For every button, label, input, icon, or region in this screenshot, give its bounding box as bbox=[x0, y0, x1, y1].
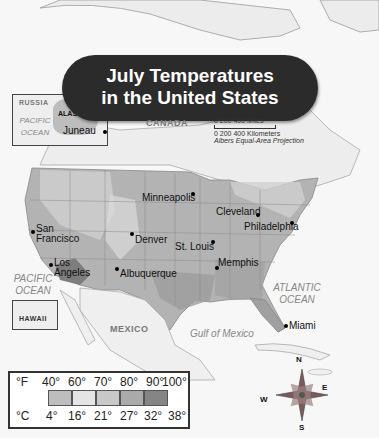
city-dot-los-angeles bbox=[49, 263, 53, 267]
legend-c-38: 38° bbox=[168, 409, 186, 423]
legend-f-60: 60° bbox=[68, 375, 86, 389]
compass-e: E bbox=[322, 383, 327, 392]
legend-fahrenheit-unit: °F bbox=[16, 375, 28, 389]
scale-km: 0 200 400 Kilometers bbox=[214, 130, 304, 137]
mexico-label: MEXICO bbox=[110, 324, 149, 334]
city-dot-albuquerque bbox=[115, 267, 119, 271]
inset-pacific-ocean-label: PACIFIC OCEAN bbox=[15, 115, 55, 139]
city-denver: Denver bbox=[135, 234, 167, 245]
legend-swatch-4 bbox=[120, 390, 144, 406]
compass-w: W bbox=[260, 395, 268, 404]
legend-swatch-2 bbox=[72, 390, 96, 406]
legend-c-16: 16° bbox=[68, 409, 86, 423]
legend-celsius-unit: °C bbox=[16, 409, 29, 423]
city-miami: Miami bbox=[289, 320, 316, 331]
gulf-of-mexico-label: Gulf of Mexico bbox=[190, 328, 254, 340]
canada-label: CANADA bbox=[146, 118, 188, 128]
legend-swatch-3 bbox=[96, 390, 120, 406]
legend-c-21: 21° bbox=[94, 409, 112, 423]
compass-rose-icon: N S E W bbox=[272, 365, 332, 425]
title-line-1: July Temperatures bbox=[62, 65, 318, 87]
legend-swatch-1 bbox=[48, 390, 72, 406]
legend-c-4: 4° bbox=[46, 409, 57, 423]
projection-label: Albers Equal-Area Projection bbox=[214, 137, 304, 144]
legend-f-70: 70° bbox=[94, 375, 112, 389]
city-san-francisco: San Francisco bbox=[36, 224, 76, 244]
juneau-label: Juneau bbox=[63, 125, 96, 136]
legend-c-27: 27° bbox=[120, 409, 138, 423]
city-dot-denver bbox=[130, 232, 134, 236]
city-philadelphia: Philadelphia bbox=[244, 221, 299, 232]
legend-f-40: 40° bbox=[42, 375, 60, 389]
hawaii-label: HAWAII bbox=[19, 315, 47, 322]
scale-bar: 0 200 400 Miles 0 200 400 Kilometers Alb… bbox=[214, 117, 304, 144]
city-dot-san-francisco bbox=[31, 230, 35, 234]
city-st-louis: St. Louis bbox=[175, 241, 214, 252]
atlantic-ocean-label: ATLANTIC OCEAN bbox=[270, 282, 324, 306]
city-los-angeles: Los Angeles bbox=[54, 258, 94, 278]
legend-f-80: 80° bbox=[120, 375, 138, 389]
scale-miles: 0 200 400 Miles bbox=[214, 117, 304, 124]
juneau-dot bbox=[103, 130, 107, 134]
city-memphis: Memphis bbox=[218, 257, 259, 268]
city-minneapolis: Minneapolis bbox=[142, 192, 195, 203]
title-line-2: in the United States bbox=[62, 87, 318, 109]
hawaii-inset: HAWAII bbox=[12, 300, 58, 330]
legend-f-100: 100° bbox=[162, 375, 187, 389]
russia-label: RUSSIA bbox=[19, 99, 48, 106]
city-cleveland: Cleveland bbox=[216, 206, 260, 217]
legend-c-32: 32° bbox=[144, 409, 162, 423]
city-dot-miami bbox=[284, 324, 288, 328]
pacific-ocean-label: PACIFIC OCEAN bbox=[8, 273, 58, 297]
map-title: July Temperatures in the United States bbox=[62, 55, 318, 121]
legend-swatch-5 bbox=[144, 390, 168, 406]
city-albuquerque: Albuquerque bbox=[120, 268, 177, 279]
compass-n: N bbox=[296, 355, 302, 364]
temperature-legend: °F 40° 60° 70° 80° 90° 100° °C 4° 16° 21… bbox=[8, 371, 190, 429]
compass-s: S bbox=[299, 423, 304, 432]
